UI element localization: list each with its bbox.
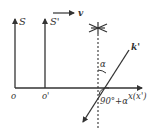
star-icon xyxy=(89,22,107,34)
ninety-plus-alpha-label: 90°+α xyxy=(100,96,128,106)
s-prime-frame-label: S' xyxy=(50,16,60,27)
s-frame-label: S xyxy=(19,16,26,27)
s-prime-origin-label: o' xyxy=(42,91,49,101)
s-origin-label: o xyxy=(11,91,16,101)
wave-vector-label: k' xyxy=(131,42,140,52)
wave-vector-ray xyxy=(83,50,129,122)
alpha-label: α xyxy=(100,59,106,69)
x-axis-label: x(x') xyxy=(128,91,147,101)
velocity-label: v xyxy=(78,8,84,18)
relativity-aberration-diagram: S S' v x(x') o o' k' α 90°+α xyxy=(0,0,157,130)
alpha-angle-arc xyxy=(98,70,106,73)
